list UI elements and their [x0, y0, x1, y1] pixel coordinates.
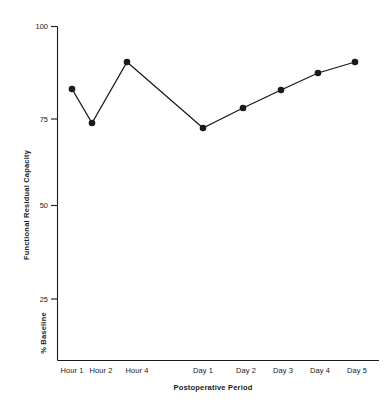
chart-figure: 100 75 50 25 Functional Residual Capacit…	[0, 0, 388, 404]
y-axis-title: Functional Residual Capacity	[22, 149, 31, 260]
data-point-day-4	[315, 70, 322, 77]
line-chart-canvas: 100 75 50 25 Functional Residual Capacit…	[0, 0, 388, 404]
data-point-day-2	[240, 105, 247, 112]
data-point-hour-2	[89, 120, 96, 127]
x-tick-label-day-2: Day 2	[236, 366, 256, 375]
x-tick-label-day-1: Day 1	[193, 366, 213, 375]
x-tick-label-hour-2: Hour 2	[89, 366, 112, 375]
x-tick-label-hour-4: Hour 4	[125, 366, 148, 375]
y-tick-label-50: 50	[40, 201, 48, 210]
x-axis-title: Postoperative Period	[173, 383, 252, 392]
x-tick-label-day-5: Day 5	[347, 366, 367, 375]
data-point-hour-4	[124, 59, 131, 66]
x-tick-label-day-3: Day 3	[273, 366, 293, 375]
x-tick-label-day-4: Day 4	[310, 366, 330, 375]
data-point-day-1	[200, 125, 207, 132]
data-point-day-3	[278, 87, 285, 94]
y-tick-label-100: 100	[35, 22, 48, 31]
y-axis-secondary-label: % Baseline	[39, 312, 48, 354]
y-tick-label-25: 25	[40, 295, 48, 304]
y-tick-label-75: 75	[40, 115, 48, 124]
chart-background	[0, 0, 388, 404]
x-tick-label-hour-1: Hour 1	[60, 366, 83, 375]
data-point-day-5	[352, 59, 359, 66]
data-point-hour-1	[69, 86, 76, 93]
